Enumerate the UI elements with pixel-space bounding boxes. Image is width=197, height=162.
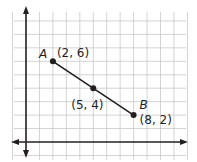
coordinate-plane: A(2, 6)(5, 4)B(8, 2) [0, 0, 197, 162]
x-axis-right-arrow-icon [180, 139, 188, 145]
axes [11, 6, 188, 158]
point-midpoint [90, 85, 96, 91]
grid-lines [13, 12, 188, 160]
point-name-a: A [38, 47, 47, 61]
coordinate-label: (2, 6) [57, 46, 89, 60]
coordinate-label: (5, 4) [71, 98, 103, 112]
coordinate-label: (8, 2) [140, 113, 172, 127]
y-axis-down-arrow-icon [23, 150, 29, 158]
point-b [131, 112, 137, 118]
y-axis-up-arrow-icon [23, 6, 29, 14]
point-name-b: B [140, 98, 148, 112]
point-a [50, 58, 56, 64]
